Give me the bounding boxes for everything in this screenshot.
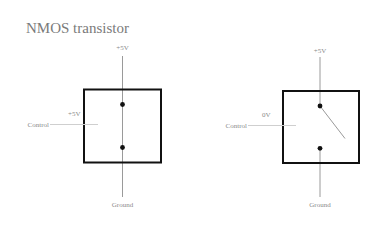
- page-title: NMOS transistor: [26, 20, 129, 36]
- ground-label: Ground: [309, 201, 331, 209]
- control-label: Control: [226, 122, 247, 130]
- transistor-box: [283, 91, 359, 163]
- control-voltage-label: 0V: [262, 111, 271, 119]
- drain-terminal-dot: [120, 102, 125, 107]
- control-voltage-label: +5V: [68, 110, 81, 118]
- source-terminal-dot: [318, 146, 323, 151]
- ground-label: Ground: [112, 201, 134, 209]
- nmos-diagram-canvas: NMOS transistor +5V Control +5V Ground +…: [0, 0, 380, 233]
- supply-label: +5V: [314, 47, 327, 55]
- drain-terminal-dot: [318, 104, 323, 109]
- source-terminal-dot: [120, 145, 125, 150]
- control-label: Control: [28, 121, 49, 129]
- open-switch-arm: [320, 106, 345, 139]
- nmos-off-diagram: +5V Control 0V Ground: [226, 47, 359, 210]
- supply-label: +5V: [116, 44, 129, 52]
- nmos-on-diagram: +5V Control +5V Ground: [28, 44, 161, 209]
